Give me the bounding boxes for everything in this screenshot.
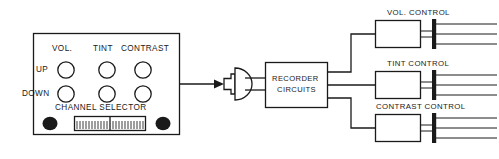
- label-recorder-line1: RECORDER: [272, 75, 319, 83]
- label-up: UP: [36, 66, 48, 74]
- label-down: DOWN: [22, 90, 50, 98]
- branch-line-vol: [327, 34, 375, 72]
- transducer-dome-icon: [235, 68, 252, 100]
- tint-down-button[interactable]: [99, 86, 115, 102]
- label-vol: VOL.: [52, 45, 72, 53]
- label-recorder-line2: CIRCUITS: [277, 86, 316, 94]
- diagram-canvas: [0, 0, 499, 159]
- label-contrast: CONTRAST: [121, 45, 169, 53]
- contrast-down-button[interactable]: [135, 86, 151, 102]
- signal-arrow-icon: [214, 80, 224, 89]
- label-vol-control: VOL. CONTROL: [387, 9, 450, 17]
- vol-up-button[interactable]: [58, 62, 74, 78]
- vol-control-connector: [432, 19, 436, 49]
- label-channel-selector: CHANNEL SELECTOR: [55, 104, 146, 112]
- label-contrast-control: CONTRAST CONTROL: [376, 103, 465, 111]
- contrast-control-connector: [432, 113, 436, 143]
- branch-line-contrast: [327, 98, 375, 128]
- block-diagram: VOL. TINT CONTRAST UP DOWN CHANNEL SELEC…: [0, 0, 499, 159]
- tint-up-button[interactable]: [99, 62, 115, 78]
- contrast-up-button[interactable]: [135, 62, 151, 78]
- vol-control-box: [376, 21, 421, 48]
- right-indicator-dot: [156, 117, 171, 131]
- label-tint: TINT: [93, 45, 113, 53]
- transducer-stem-icon: [224, 74, 235, 94]
- tint-control-connector: [432, 70, 436, 100]
- tint-control-box: [376, 72, 421, 99]
- vol-down-button[interactable]: [58, 86, 74, 102]
- left-indicator-dot: [43, 117, 58, 131]
- label-tint-control: TINT CONTROL: [387, 60, 449, 68]
- contrast-control-box: [376, 115, 421, 142]
